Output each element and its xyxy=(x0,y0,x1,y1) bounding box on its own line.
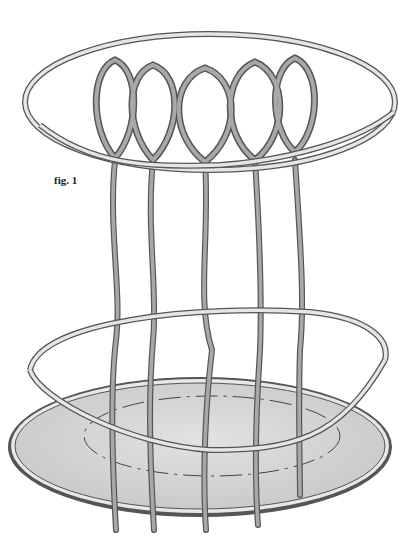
stake-loops xyxy=(96,58,314,162)
basket-illustration xyxy=(0,0,405,537)
